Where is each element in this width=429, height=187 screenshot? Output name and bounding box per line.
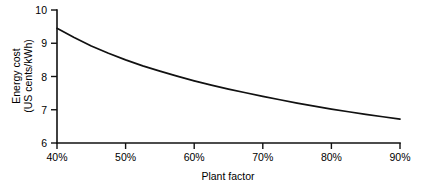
x-tick-label-70: 70% — [252, 151, 273, 163]
x-tick-label-50: 50% — [115, 151, 136, 163]
y-tick-label-8: 8 — [41, 71, 47, 83]
x-tick-label-60: 60% — [184, 151, 205, 163]
y-axis-title-line1: Energy cost — [10, 48, 22, 104]
y-axis-ticks — [51, 10, 57, 143]
energy-cost-curve — [57, 28, 400, 119]
x-axis-tick-labels: 40% 50% 60% 70% 80% 90% — [46, 151, 410, 163]
x-tick-label-90: 90% — [389, 151, 410, 163]
y-tick-label-6: 6 — [41, 137, 47, 149]
y-tick-label-7: 7 — [41, 104, 47, 116]
y-axis-title: Energy cost (US cents/kWh) — [10, 39, 34, 113]
chart-figure: 6 7 8 9 10 40% 50% 60% 70% 80% 90% Energ… — [0, 0, 429, 187]
x-tick-label-80: 80% — [321, 151, 342, 163]
x-tick-label-40: 40% — [46, 151, 67, 163]
y-tick-label-10: 10 — [35, 4, 47, 16]
energy-cost-line-chart: 6 7 8 9 10 40% 50% 60% 70% 80% 90% Energ… — [0, 0, 429, 187]
x-axis-ticks — [57, 143, 400, 149]
y-axis-tick-labels: 6 7 8 9 10 — [35, 4, 47, 149]
y-tick-label-9: 9 — [41, 37, 47, 49]
y-axis-title-line2: (US cents/kWh) — [22, 39, 34, 113]
x-axis-title: Plant factor — [201, 170, 255, 182]
